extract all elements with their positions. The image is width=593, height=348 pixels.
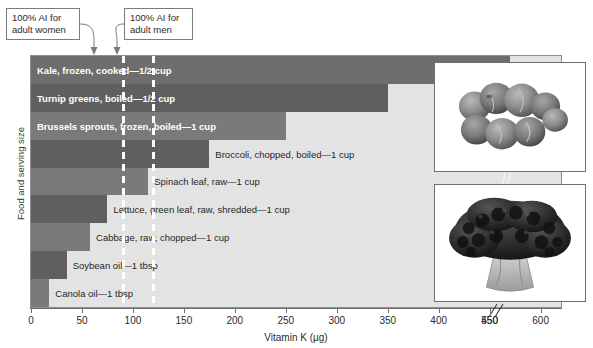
x-tick-600 xyxy=(541,308,542,313)
x-tick-label-250: 250 xyxy=(277,315,294,326)
x-tick-150 xyxy=(184,308,185,313)
bar-7: Soybean oil—1 tbsp xyxy=(31,251,67,279)
y-axis-title: Food and serving size xyxy=(15,109,26,239)
x-tick-250 xyxy=(286,308,287,313)
x-tick-100 xyxy=(133,308,134,313)
bar-label-5: Lettuce, green leaf, raw, shredded—1 cup xyxy=(113,204,289,215)
brussels-sprouts-photo xyxy=(434,62,586,172)
x-tick-50 xyxy=(82,308,83,313)
x-tick-label-0: 0 xyxy=(28,315,34,326)
x-axis-title: Vitamin K (µg) xyxy=(30,332,562,343)
x-tick-label-550: 550 xyxy=(481,315,498,326)
bar-label-6: Cabbage, raw, chopped—1 cup xyxy=(96,232,229,243)
x-tick-400 xyxy=(439,308,440,313)
bar-3: Broccoli, chopped, boiled—1 cup xyxy=(31,140,209,168)
x-tick-label-200: 200 xyxy=(227,315,244,326)
bar-label-7: Soybean oil—1 tbsp xyxy=(73,260,158,271)
x-tick-label-150: 150 xyxy=(176,315,193,326)
x-tick-550 xyxy=(490,308,491,313)
bar-8: Canola oil—1 tbsp xyxy=(31,279,49,307)
x-tick-label-350: 350 xyxy=(379,315,396,326)
x-tick-label-400: 400 xyxy=(430,315,447,326)
callout-connectors xyxy=(0,0,210,60)
x-axis-line xyxy=(30,308,562,309)
x-tick-label-600: 600 xyxy=(532,315,549,326)
vitamin-k-chart-figure: 100% AI for adult women 100% AI for adul… xyxy=(0,0,593,348)
x-tick-label-100: 100 xyxy=(125,315,142,326)
bar-label-4: Spinach leaf, raw—1 cup xyxy=(154,176,260,187)
x-tick-label-50: 50 xyxy=(76,315,87,326)
x-tick-200 xyxy=(235,308,236,313)
bar-4: Spinach leaf, raw—1 cup xyxy=(31,168,148,196)
x-tick-350 xyxy=(388,308,389,313)
bar-5: Lettuce, green leaf, raw, shredded—1 cup xyxy=(31,195,107,223)
x-tick-0 xyxy=(31,308,32,313)
reference-line-ai-adult-women xyxy=(122,56,125,307)
bar-label-2: Brussels sprouts, frozen, boiled—1 cup xyxy=(37,120,216,131)
bar-1: Turnip greens, boiled—1/2 cup xyxy=(31,84,388,112)
broccoli-photo xyxy=(434,184,586,302)
x-tick-300 xyxy=(337,308,338,313)
reference-line-ai-adult-men xyxy=(152,56,155,307)
x-axis: Vitamin K (µg) 0501001502002503003504004… xyxy=(30,308,562,348)
bar-2: Brussels sprouts, frozen, boiled—1 cup xyxy=(31,112,286,140)
bar-6: Cabbage, raw, chopped—1 cup xyxy=(31,223,90,251)
bar-label-3: Broccoli, chopped, boiled—1 cup xyxy=(215,148,354,159)
x-tick-label-300: 300 xyxy=(328,315,345,326)
